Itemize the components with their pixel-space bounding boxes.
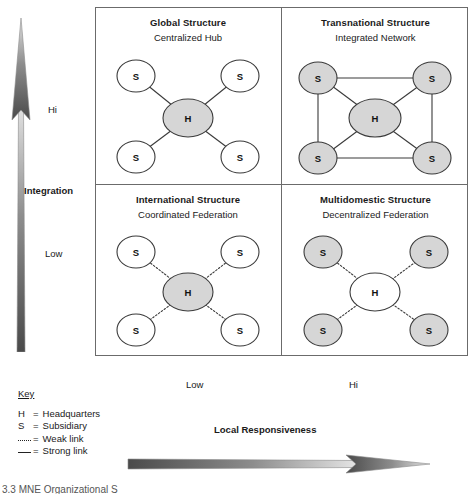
quadrant-global-subtitle: Centralized Hub xyxy=(96,32,280,43)
integration-axis-arrow xyxy=(6,14,40,352)
responsiveness-low-label: Low xyxy=(186,379,203,390)
key-text-subsidiary: Subsidiary xyxy=(43,420,87,432)
figure-canvas: Hi Integration Low Global Structure Cent… xyxy=(0,0,475,494)
key-title: Key xyxy=(18,388,158,399)
key-entry-subsidiary: S = Subsidiary xyxy=(18,420,158,432)
key-text-weak-link: Weak link xyxy=(43,433,84,445)
quadrant-transnational: Transnational Structure Integrated Netwo… xyxy=(283,8,468,43)
quadrant-global-title: Global Structure xyxy=(96,17,280,28)
quadrant-transnational-subtitle: Integrated Network xyxy=(283,32,468,43)
key-legend: Key H = Headquarters S = Subsidiary = We… xyxy=(18,388,158,458)
quadrant-global: Global Structure Centralized Hub xyxy=(96,8,280,43)
integration-high-label: Hi xyxy=(48,104,57,115)
key-separator: = xyxy=(33,433,39,445)
integration-low-label: Low xyxy=(45,248,62,259)
key-entry-headquarters: H = Headquarters xyxy=(18,408,158,420)
key-separator: = xyxy=(33,420,39,432)
responsiveness-axis-label: Local Responsiveness xyxy=(214,424,316,435)
key-text-headquarters: Headquarters xyxy=(43,408,101,420)
integration-axis-label: Integration xyxy=(24,185,73,196)
figure-caption: 3.3 MNE Organizational S xyxy=(2,484,118,494)
key-glyph-h: H xyxy=(18,408,33,420)
quadrant-international-subtitle: Coordinated Federation xyxy=(96,209,280,220)
responsiveness-high-label: Hi xyxy=(349,379,358,390)
matrix-vertical-divider xyxy=(281,7,282,356)
responsiveness-axis-arrow xyxy=(124,450,434,478)
quadrant-multidomestic-subtitle: Decentralized Federation xyxy=(283,209,468,220)
key-entry-weak-link: = Weak link xyxy=(18,433,158,445)
key-separator: = xyxy=(33,445,39,457)
quadrant-multidomestic: Multidomestic Structure Decentralized Fe… xyxy=(283,185,468,220)
key-separator: = xyxy=(33,408,39,420)
quadrant-transnational-title: Transnational Structure xyxy=(283,17,468,28)
quadrant-international-title: International Structure xyxy=(96,194,280,205)
dotted-line-icon xyxy=(18,434,33,444)
key-entry-strong-link: = Strong link xyxy=(18,445,158,457)
key-glyph-s: S xyxy=(18,420,33,432)
quadrant-multidomestic-title: Multidomestic Structure xyxy=(283,194,468,205)
solid-line-icon xyxy=(18,446,33,456)
key-text-strong-link: Strong link xyxy=(43,445,88,457)
quadrant-international: International Structure Coordinated Fede… xyxy=(96,185,280,220)
